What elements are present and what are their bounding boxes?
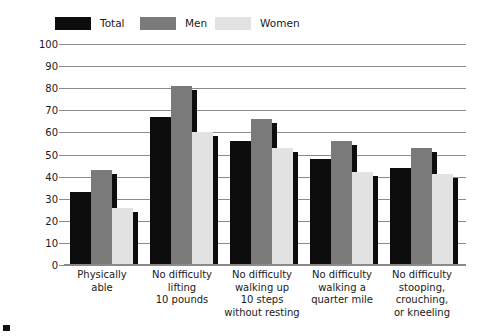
x-axis-label-line: without resting [214, 307, 310, 320]
bar-fill-men [411, 148, 432, 265]
bar[interactable] [331, 141, 352, 265]
bar-group [70, 44, 139, 265]
x-axis-label-line: crouching, [374, 294, 470, 307]
y-tick-label-30: 30 [28, 193, 58, 204]
bar-shadow [373, 176, 378, 265]
y-tick-label-70: 70 [28, 105, 58, 116]
y-tick-label-100: 100 [28, 39, 58, 50]
y-tick-label-10: 10 [28, 237, 58, 248]
legend-label-total: Total [100, 17, 125, 29]
bar[interactable] [150, 117, 171, 265]
bar-shadow [293, 152, 298, 265]
legend-swatch-men [140, 17, 176, 30]
bar-fill-total [310, 159, 331, 265]
bar[interactable] [91, 170, 112, 265]
bar-fill-men [91, 170, 112, 265]
plot-area [64, 44, 466, 265]
bar[interactable] [230, 141, 251, 265]
bar[interactable] [310, 159, 331, 265]
legend-swatch-women [215, 17, 251, 30]
bar-group [230, 44, 299, 265]
bar-fill-women [272, 148, 293, 265]
bar[interactable] [272, 148, 293, 265]
bar[interactable] [411, 148, 432, 265]
bar-chart: TotalMenWomen 1009080706050403020100 Per… [0, 0, 487, 336]
bar[interactable] [432, 174, 453, 265]
y-tick-label-20: 20 [28, 215, 58, 226]
y-tick-label-40: 40 [28, 171, 58, 182]
bar-group [390, 44, 459, 265]
x-axis-label: No difficultystooping,crouching,or kneel… [374, 269, 470, 319]
bar-fill-men [331, 141, 352, 265]
bar[interactable] [70, 192, 91, 265]
bar[interactable] [251, 119, 272, 265]
bar[interactable] [171, 86, 192, 265]
legend-item-women[interactable]: Women [215, 14, 300, 32]
x-axis-label-line: stooping, [374, 282, 470, 295]
bar-fill-total [150, 117, 171, 265]
bar-fill-women [192, 132, 213, 265]
x-axis-label-line: or kneeling [374, 307, 470, 320]
bar-fill-total [70, 192, 91, 265]
bar-fill-men [171, 86, 192, 265]
chart-legend: TotalMenWomen [0, 14, 487, 34]
legend-item-total[interactable]: Total [55, 14, 125, 32]
bar[interactable] [112, 208, 133, 265]
bar-fill-total [230, 141, 251, 265]
bar-shadow [453, 178, 458, 265]
bar-fill-women [112, 208, 133, 265]
x-axis-label-line: No difficulty [374, 269, 470, 282]
legend-label-men: Men [185, 17, 207, 29]
y-tick-label-60: 60 [28, 127, 58, 138]
bar-shadow [133, 212, 138, 265]
x-axis-category-labels: PhysicallyableNo difficultylifting10 pou… [64, 269, 466, 336]
bar[interactable] [352, 172, 373, 265]
bar-fill-total [390, 168, 411, 265]
bar[interactable] [192, 132, 213, 265]
y-tick-label-90: 90 [28, 61, 58, 72]
bar-fill-women [432, 174, 453, 265]
bar-shadow [213, 136, 218, 265]
bar-group [150, 44, 219, 265]
legend-item-men[interactable]: Men [140, 14, 207, 32]
gridline-0 [64, 265, 466, 266]
bar-fill-women [352, 172, 373, 265]
bar-fill-men [251, 119, 272, 265]
bar-group [310, 44, 379, 265]
y-tick-label-50: 50 [28, 149, 58, 160]
page-corner-mark [3, 325, 10, 331]
legend-label-women: Women [260, 17, 300, 29]
y-tick-label-80: 80 [28, 83, 58, 94]
legend-swatch-total [55, 17, 91, 30]
x-axis-baseline [64, 264, 466, 265]
bar[interactable] [390, 168, 411, 265]
